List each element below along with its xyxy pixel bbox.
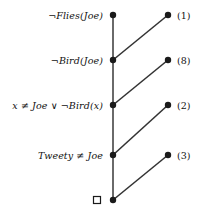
resolution-edge-i3-n4 <box>113 105 168 155</box>
clause-label-n3: x ≠ Joe ∨ ¬Bird(x) <box>12 100 103 111</box>
input-clause-label-i3: (2) <box>177 100 190 111</box>
input-node-dot-i4 <box>165 152 171 158</box>
resolution-edge-i4-n5 <box>113 155 168 200</box>
resolution-proof-diagram: ¬Flies(Joe) ¬Bird(Joe) x ≠ Joe ∨ ¬Bird(x… <box>0 0 207 218</box>
clause-label-n1: ¬Flies(Joe) <box>48 10 103 21</box>
input-clause-label-i4: (3) <box>177 150 190 161</box>
input-clause-label-i2: (8) <box>177 55 190 66</box>
input-clause-label-i1: (1) <box>177 10 190 21</box>
clause-label-n2: ¬Bird(Joe) <box>51 55 103 66</box>
spine-node-dot-n3 <box>110 102 116 108</box>
spine-node-dot-n5 <box>110 197 116 203</box>
resolution-edge-i2-n3 <box>113 60 168 105</box>
spine-node-dot-n2 <box>110 57 116 63</box>
spine-node-dot-n1 <box>110 12 116 18</box>
empty-clause-box-icon <box>94 197 101 204</box>
resolution-edges <box>113 15 168 200</box>
spine-node-dot-n4 <box>110 152 116 158</box>
input-node-dot-i2 <box>165 57 171 63</box>
input-node-dot-i3 <box>165 102 171 108</box>
input-node-dot-i1 <box>165 12 171 18</box>
clause-label-n4: Tweety ≠ Joe <box>38 150 103 161</box>
resolution-edge-i1-n2 <box>113 15 168 60</box>
input-node-dots <box>165 12 171 158</box>
